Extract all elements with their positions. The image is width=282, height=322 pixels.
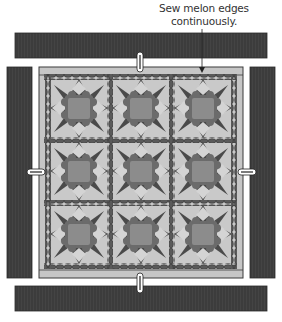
pin-right bbox=[238, 169, 256, 175]
pin-bottom bbox=[137, 273, 143, 293]
quilt-top bbox=[39, 67, 243, 278]
pin-top bbox=[137, 52, 143, 72]
pin-left bbox=[27, 169, 45, 175]
quilt-diagram bbox=[0, 0, 282, 322]
star-blocks bbox=[48, 77, 234, 266]
